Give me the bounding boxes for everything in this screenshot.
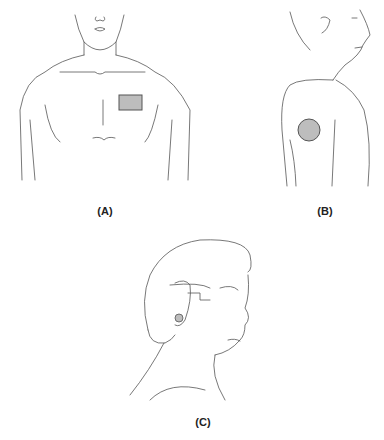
panel-c-body bbox=[130, 240, 251, 400]
panel-a-body bbox=[20, 15, 190, 180]
marker-arm-patch bbox=[298, 119, 320, 141]
panel-c-label: (C) bbox=[183, 416, 223, 428]
panel-b-label: (B) bbox=[305, 205, 345, 217]
panel-b-body bbox=[282, 10, 370, 186]
marker-chest-patch bbox=[119, 95, 142, 110]
figure-canvas bbox=[0, 0, 384, 440]
marker-ear-patch bbox=[175, 314, 183, 322]
panel-a-label: (A) bbox=[85, 205, 125, 217]
